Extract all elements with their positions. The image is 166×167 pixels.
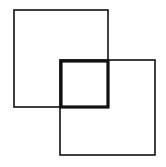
overlapping-squares-diagram	[0, 0, 166, 167]
square-overlap	[61, 61, 108, 107]
